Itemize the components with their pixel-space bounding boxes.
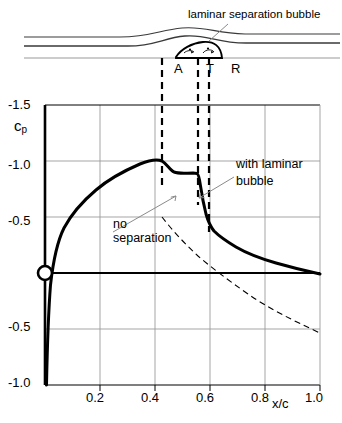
ytick-label-pos-0-5: -0.5 — [8, 320, 30, 333]
stagnation-point-marker — [38, 266, 52, 280]
cp-main: c — [14, 117, 22, 134]
curve-no-separation — [162, 217, 320, 333]
annotation-no-separation-line1: no — [113, 218, 127, 231]
annotation-with-laminar-bubble-line2: bubble — [236, 175, 274, 188]
separation-bubble-shape — [176, 42, 222, 58]
station-label-A: A — [174, 62, 183, 75]
y-axis-label-cp: cp — [14, 118, 27, 135]
recirculation-dot-left — [189, 48, 191, 50]
plot-frame — [45, 105, 320, 385]
xtick-label-0-4: 0.4 — [141, 391, 159, 404]
airfoil-flow-diagram — [24, 24, 340, 58]
with-bubble-leader-line — [199, 177, 234, 198]
ytick-label-neg-0-5: -0.5 — [8, 214, 30, 227]
station-dashed-lines — [162, 58, 209, 232]
ytick-label-neg-1-5: -1.5 — [8, 98, 30, 111]
recirculation-dot-right — [207, 47, 209, 49]
x-axis-label: x/c — [272, 397, 289, 410]
annotation-leaders — [113, 177, 234, 232]
ytick-label-pos-1-0: -1.0 — [8, 376, 30, 389]
plot-grid — [45, 105, 320, 385]
annotation-with-laminar-bubble-line1: with laminar — [236, 158, 303, 171]
xtick-label-1-0: 1.0 — [305, 391, 323, 404]
xtick-label-0-2: 0.2 — [86, 391, 104, 404]
ytick-label-neg-1-0: -1.0 — [8, 158, 30, 171]
annotation-no-separation-line2: separation — [113, 232, 171, 245]
station-label-R: R — [231, 62, 240, 75]
diagram-title-laminar-separation-bubble: laminar separation bubble — [188, 9, 320, 21]
streamline-outer — [24, 28, 340, 37]
xtick-label-0-8: 0.8 — [251, 391, 269, 404]
cp-subscript: p — [22, 124, 28, 135]
figure-canvas — [0, 0, 342, 423]
station-label-T: T — [206, 62, 214, 75]
xtick-label-0-6: 0.6 — [196, 391, 214, 404]
